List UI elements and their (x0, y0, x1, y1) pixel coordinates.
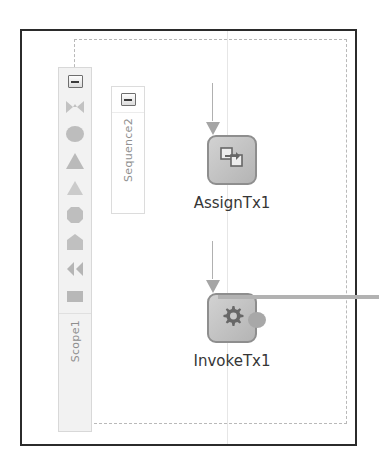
connector-arrow-assign-to-invoke (206, 241, 220, 293)
invoke-node-label: InvokeTx1 (194, 352, 271, 370)
scope-label-container: Scope1 (59, 313, 91, 431)
invoke-connector-nub (248, 312, 266, 328)
scope-palette-strip[interactable]: Scope1 (58, 67, 92, 432)
assign-copy-icon (219, 145, 245, 175)
octagon-shape-icon[interactable] (64, 204, 86, 226)
arrowhead-icon (206, 280, 220, 293)
assign-node-label: AssignTx1 (194, 194, 271, 212)
arrowhead-icon (206, 122, 220, 135)
pentagon-shape-icon[interactable] (64, 231, 86, 253)
scope-label: Scope1 (69, 320, 82, 362)
gear-icon (220, 304, 245, 333)
connector-stem (212, 241, 213, 279)
scope-collapse-minus-icon[interactable] (68, 75, 83, 88)
sequence-collapse-minus-icon[interactable] (121, 93, 136, 106)
connector-arrow-into-assign (206, 83, 220, 135)
connector-stem (212, 83, 213, 121)
bpel-editor-window: Scope1 Sequence2 AssignTx1 (20, 29, 357, 446)
sequence-panel[interactable]: Sequence2 (111, 86, 145, 214)
activity-node-invoke[interactable]: InvokeTx1 (182, 293, 282, 370)
activity-node-assign[interactable]: AssignTx1 (182, 135, 282, 212)
blob-shape-icon[interactable] (64, 123, 86, 145)
square-shape-icon[interactable] (64, 285, 86, 307)
minus-bar (124, 99, 132, 101)
palette-icon-list (64, 96, 86, 307)
assign-node-shape[interactable] (207, 135, 257, 185)
minus-bar (71, 81, 79, 83)
sequence-label-container: Sequence2 (112, 112, 144, 213)
triangle-outline-shape-icon[interactable] (64, 177, 86, 199)
bowtie-shape-icon[interactable] (64, 96, 86, 118)
sequence-label: Sequence2 (122, 118, 135, 182)
triangle-shape-icon[interactable] (64, 150, 86, 172)
invoke-outgoing-link (218, 295, 379, 299)
double-arrow-shape-icon[interactable] (64, 258, 86, 280)
invoke-node-shape[interactable] (207, 293, 257, 343)
